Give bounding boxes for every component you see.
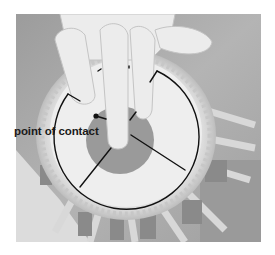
point-of-contact-label: point of contact (14, 125, 99, 137)
contact-point-dot (93, 113, 98, 118)
